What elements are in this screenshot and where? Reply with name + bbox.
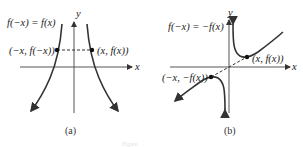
panel-b: y x f(−x) = −f(x) (x, f(x)) (−x, −f(x)) … (162, 7, 297, 137)
footer-caption: Figure (122, 141, 138, 147)
x-label-a: x (134, 61, 140, 72)
caption-a: (a) (65, 125, 76, 137)
y-label-a: y (75, 8, 81, 19)
symmetry-figure: y x f(−x) = f(x) (−x, f(−x)) (x, f(x)) (… (0, 0, 303, 147)
point-left-b (209, 75, 213, 79)
x-label-b: x (291, 61, 297, 72)
y-label-b: y (227, 7, 233, 18)
panel-a: y x f(−x) = f(x) (−x, f(−x)) (x, f(x)) (… (7, 8, 140, 137)
point-right-a (90, 48, 94, 52)
equation-a: f(−x) = f(x) (7, 17, 56, 29)
point-right-b (245, 55, 249, 59)
point-left-label-a: (−x, f(−x)) (9, 45, 55, 57)
caption-b: (b) (224, 125, 236, 137)
point-left-a (55, 48, 59, 52)
point-left-label-b: (−x, −f(x)) (162, 72, 208, 84)
point-right-label-b: (x, f(x)) (252, 53, 284, 65)
point-right-label-a: (x, f(x)) (97, 45, 129, 57)
equation-b: f(−x) = −f(x) (168, 21, 224, 33)
